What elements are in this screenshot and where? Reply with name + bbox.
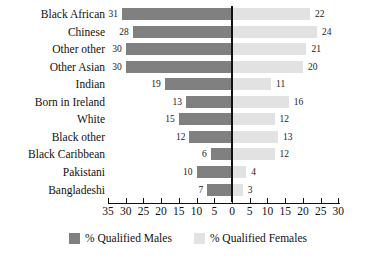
bar-male-white	[179, 113, 232, 125]
bar-male-black-african	[122, 8, 232, 20]
bar-male-chinese	[133, 26, 232, 38]
bar-female-indian	[232, 78, 271, 90]
category-label-born-in-ireland: Born in Ireland	[35, 96, 105, 108]
value-label-female-other-asian: 20	[308, 61, 318, 73]
value-label-female-black-african: 22	[315, 8, 325, 20]
legend-swatch-male-icon	[69, 233, 80, 244]
bar-female-pakistani	[232, 166, 246, 178]
category-label-chinese: Chinese	[68, 26, 105, 38]
bar-male-other-other	[126, 43, 232, 55]
value-label-male-pakistani: 10	[171, 166, 193, 178]
value-label-female-chinese: 24	[322, 26, 332, 38]
value-label-male-bangladeshi: 7	[181, 184, 203, 196]
category-label-other-other: Other other	[52, 43, 105, 55]
value-label-female-born-in-ireland: 16	[294, 96, 304, 108]
axis-tick-8	[250, 198, 251, 203]
bar-female-chinese	[232, 26, 317, 38]
value-label-female-black-other: 13	[283, 131, 293, 143]
value-label-male-black-caribbean: 6	[185, 148, 207, 160]
value-label-male-black-other: 12	[163, 131, 185, 143]
bar-male-indian	[165, 78, 232, 90]
axis-tick-4	[179, 198, 180, 203]
bar-female-bangladeshi	[232, 184, 243, 196]
value-label-female-white: 12	[280, 113, 290, 125]
bar-male-other-asian	[126, 61, 232, 73]
axis-tick-1	[126, 198, 127, 203]
value-label-female-black-caribbean: 12	[280, 148, 290, 160]
axis-tick-7	[232, 198, 233, 203]
legend-item-female[interactable]: % Qualified Females	[194, 232, 307, 245]
bar-female-black-african	[232, 8, 310, 20]
axis-tick-13	[338, 198, 339, 203]
axis-tick-0	[108, 198, 109, 203]
value-label-female-other-other: 21	[311, 43, 321, 55]
bar-female-black-caribbean	[232, 148, 275, 160]
axis-tick-12	[321, 198, 322, 203]
bar-female-born-in-ireland	[232, 96, 289, 108]
axis-tick-2	[143, 198, 144, 203]
bar-male-black-caribbean	[211, 148, 232, 160]
axis-tick-9	[267, 198, 268, 203]
value-label-male-other-asian: 30	[100, 61, 122, 73]
category-label-bangladeshi: Bangladeshi	[48, 184, 105, 196]
bar-female-black-other	[232, 131, 278, 143]
category-label-black-other: Black other	[52, 131, 105, 143]
bar-female-other-asian	[232, 61, 303, 73]
axis-tick-6	[214, 198, 215, 203]
axis-tick-5	[197, 198, 198, 203]
axis-tick-11	[303, 198, 304, 203]
zero-axis-line	[231, 6, 233, 202]
axis-tick-10	[285, 198, 286, 203]
value-label-female-pakistani: 4	[251, 166, 256, 178]
legend-label-female: % Qualified Females	[210, 232, 307, 245]
value-axis-line	[108, 203, 340, 204]
axis-tick-3	[161, 198, 162, 203]
legend-item-male[interactable]: % Qualified Males	[69, 232, 172, 245]
legend-swatch-female-icon	[194, 233, 205, 244]
value-label-male-white: 15	[153, 113, 175, 125]
bar-female-white	[232, 113, 275, 125]
value-label-male-other-other: 30	[100, 43, 122, 55]
value-label-male-black-african: 31	[96, 8, 118, 20]
category-label-indian: Indian	[76, 78, 105, 90]
category-label-black-caribbean: Black Caribbean	[28, 148, 105, 160]
chart-legend: % Qualified Males% Qualified Females	[0, 232, 376, 245]
bar-male-black-other	[189, 131, 232, 143]
axis-tick-label-13: 30	[326, 205, 350, 218]
bar-male-born-in-ireland	[186, 96, 232, 108]
bar-female-other-other	[232, 43, 306, 55]
category-label-pakistani: Pakistani	[63, 166, 105, 178]
value-label-female-indian: 11	[276, 78, 285, 90]
value-label-male-chinese: 28	[107, 26, 129, 38]
bar-male-pakistani	[197, 166, 232, 178]
value-label-male-indian: 19	[139, 78, 161, 90]
category-label-other-asian: Other Asian	[50, 61, 105, 73]
category-label-white: White	[77, 113, 105, 125]
legend-label-male: % Qualified Males	[85, 232, 172, 245]
bidirectional-bar-chart: Black AfricanChineseOther otherOther Asi…	[0, 0, 376, 259]
value-label-female-bangladeshi: 3	[248, 184, 253, 196]
value-label-male-born-in-ireland: 13	[160, 96, 182, 108]
bar-male-bangladeshi	[207, 184, 232, 196]
